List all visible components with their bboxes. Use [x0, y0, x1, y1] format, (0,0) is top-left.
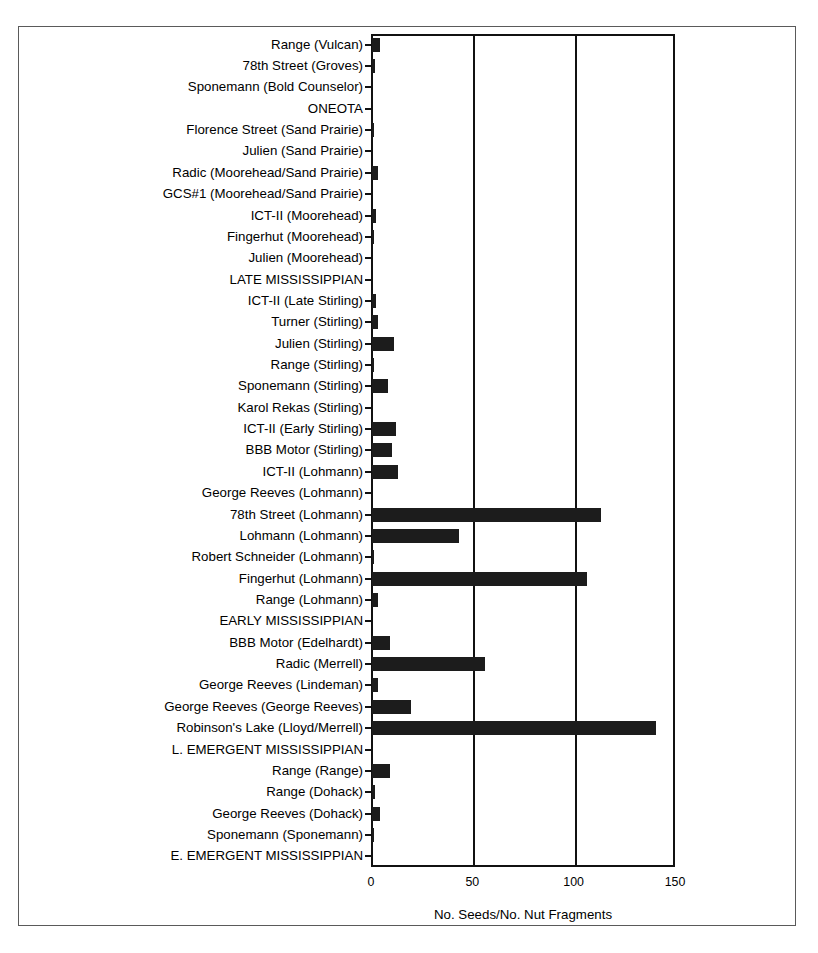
- y-axis-tick: [365, 855, 372, 857]
- bar-row: Julien (Sand Prairie): [19, 141, 797, 162]
- bar-row-label: Fingerhut (Lohmann): [23, 572, 363, 586]
- bar-row-label: George Reeves (George Reeves): [23, 700, 363, 714]
- bar-row-label: Radic (Moorehead/Sand Prairie): [23, 166, 363, 180]
- y-axis-tick: [365, 65, 372, 67]
- bar-row-label: EARLY MISSISSIPPIAN: [23, 614, 363, 628]
- bar-row: BBB Motor (Edelhardt): [19, 632, 797, 653]
- bar: [372, 550, 374, 564]
- y-axis-tick: [365, 86, 372, 88]
- bar-row: Robert Schneider (Lohmann): [19, 547, 797, 568]
- y-axis-tick: [365, 449, 372, 451]
- y-axis-tick: [365, 556, 372, 558]
- bar-row: E. EMERGENT MISSISSIPPIAN: [19, 846, 797, 867]
- bar-row: Lohmann (Lohmann): [19, 525, 797, 546]
- bar: [372, 593, 378, 607]
- bar-row: 78th Street (Lohmann): [19, 504, 797, 525]
- y-axis-tick: [365, 663, 372, 665]
- bar-row-label: Robert Schneider (Lohmann): [23, 550, 363, 564]
- bar: [372, 465, 398, 479]
- bar-row: George Reeves (Lindeman): [19, 675, 797, 696]
- bar-row-label: LATE MISSISSIPPIAN: [23, 273, 363, 287]
- bar-row-label: BBB Motor (Edelhardt): [23, 636, 363, 650]
- bar-row: Florence Street (Sand Prairie): [19, 119, 797, 140]
- bar: [372, 123, 374, 137]
- bar-row: Range (Range): [19, 760, 797, 781]
- bar: [372, 443, 392, 457]
- y-axis-tick: [365, 300, 372, 302]
- bar-row-label: ICT-II (Lohmann): [23, 465, 363, 479]
- bar: [372, 700, 411, 714]
- bar-row-label: ICT-II (Late Stirling): [23, 294, 363, 308]
- y-axis-tick: [365, 407, 372, 409]
- bar-row: George Reeves (Lohmann): [19, 483, 797, 504]
- bar-row-label: Karol Rekas (Stirling): [23, 401, 363, 415]
- x-axis-title: No. Seeds/No. Nut Fragments: [434, 907, 612, 922]
- bar-row-label: George Reeves (Dohack): [23, 807, 363, 821]
- bar-row: Julien (Stirling): [19, 333, 797, 354]
- bar: [372, 807, 380, 821]
- y-axis-tick: [365, 257, 372, 259]
- bar-row: Fingerhut (Lohmann): [19, 568, 797, 589]
- bar-row-label: Julien (Moorehead): [23, 251, 363, 265]
- y-axis-tick: [365, 321, 372, 323]
- bar-row: GCS#1 (Moorehead/Sand Prairie): [19, 184, 797, 205]
- bar-row: Robinson's Lake (Lloyd/Merrell): [19, 717, 797, 738]
- bar-row: Sponemann (Stirling): [19, 376, 797, 397]
- bar-row-label: GCS#1 (Moorehead/Sand Prairie): [23, 187, 363, 201]
- bar-row: Sponemann (Sponemann): [19, 824, 797, 845]
- bar-row-label: L. EMERGENT MISSISSIPPIAN: [23, 743, 363, 757]
- bar: [372, 59, 375, 73]
- y-axis-tick: [365, 108, 372, 110]
- bar-row: George Reeves (Dohack): [19, 803, 797, 824]
- bar-row-label: BBB Motor (Stirling): [23, 443, 363, 457]
- y-axis-tick: [365, 44, 372, 46]
- bar-row-label: Sponemann (Bold Counselor): [23, 80, 363, 94]
- bar: [372, 572, 587, 586]
- bar-row-label: 78th Street (Groves): [23, 59, 363, 73]
- y-axis-tick: [365, 236, 372, 238]
- y-axis-tick: [365, 385, 372, 387]
- bar: [372, 209, 376, 223]
- y-axis-tick: [365, 599, 372, 601]
- bar-row: Karol Rekas (Stirling): [19, 397, 797, 418]
- bar-row-label: ONEOTA: [23, 102, 363, 116]
- bar-row-label: Range (Lohmann): [23, 593, 363, 607]
- bar-chart: Range (Vulcan)78th Street (Groves)Sponem…: [19, 27, 797, 927]
- y-axis-tick: [365, 150, 372, 152]
- bar-row-label: George Reeves (Lindeman): [23, 678, 363, 692]
- bar: [372, 315, 378, 329]
- y-axis-tick: [365, 364, 372, 366]
- bar-row-label: Range (Range): [23, 764, 363, 778]
- bar-row: George Reeves (George Reeves): [19, 696, 797, 717]
- bar: [372, 828, 374, 842]
- bar: [372, 508, 601, 522]
- bar-row-label: Sponemann (Stirling): [23, 379, 363, 393]
- bar-row: Sponemann (Bold Counselor): [19, 77, 797, 98]
- bar-row: BBB Motor (Stirling): [19, 440, 797, 461]
- bar: [372, 38, 380, 52]
- bar-row-label: Florence Street (Sand Prairie): [23, 123, 363, 137]
- bar-row-label: Julien (Sand Prairie): [23, 144, 363, 158]
- bar: [372, 636, 390, 650]
- bar: [372, 764, 390, 778]
- bar-row-label: Fingerhut (Moorehead): [23, 230, 363, 244]
- bar-row-label: Lohmann (Lohmann): [23, 529, 363, 543]
- y-axis-tick: [365, 343, 372, 345]
- x-tick-label: 0: [368, 875, 375, 889]
- bar: [372, 678, 378, 692]
- bar-row-label: Range (Vulcan): [23, 38, 363, 52]
- bar-row-label: ICT-II (Early Stirling): [23, 422, 363, 436]
- y-axis-tick: [365, 535, 372, 537]
- y-axis-tick: [365, 749, 372, 751]
- y-axis-tick: [365, 791, 372, 793]
- bar-row-label: George Reeves (Lohmann): [23, 486, 363, 500]
- bar-row-label: Range (Stirling): [23, 358, 363, 372]
- bar-row: 78th Street (Groves): [19, 55, 797, 76]
- bar-row-label: E. EMERGENT MISSISSIPPIAN: [23, 849, 363, 863]
- bar-row: Range (Vulcan): [19, 34, 797, 55]
- bar-row-label: Robinson's Lake (Lloyd/Merrell): [23, 721, 363, 735]
- bar-row: ICT-II (Moorehead): [19, 205, 797, 226]
- bar-row: Fingerhut (Moorehead): [19, 226, 797, 247]
- bar-row: EARLY MISSISSIPPIAN: [19, 611, 797, 632]
- y-axis-tick: [365, 642, 372, 644]
